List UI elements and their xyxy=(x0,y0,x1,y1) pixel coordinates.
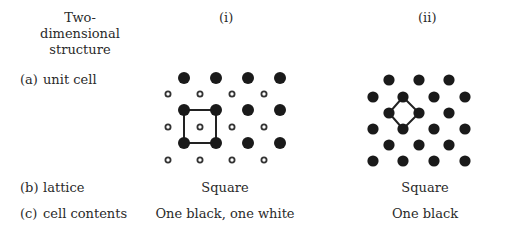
black-atom xyxy=(459,91,470,102)
black-atom xyxy=(274,104,286,116)
black-atom xyxy=(383,107,394,118)
black-atom xyxy=(443,74,454,85)
black-atom xyxy=(459,123,470,134)
white-atom xyxy=(165,91,170,96)
white-atom xyxy=(229,124,234,129)
black-atom xyxy=(242,137,254,149)
white-atom xyxy=(165,124,170,129)
black-atom xyxy=(443,139,454,150)
white-atom xyxy=(197,124,202,129)
black-atom xyxy=(178,137,190,149)
white-atom xyxy=(165,157,170,162)
black-atom xyxy=(428,123,439,134)
black-atom xyxy=(383,74,394,85)
white-atom xyxy=(197,91,202,96)
black-atom xyxy=(413,139,424,150)
black-atom xyxy=(383,139,394,150)
black-atom xyxy=(367,155,378,166)
structure-diagrams xyxy=(0,0,505,230)
white-atom xyxy=(261,91,266,96)
black-atom xyxy=(428,155,439,166)
black-atom xyxy=(274,137,286,149)
white-atom xyxy=(229,91,234,96)
black-atom xyxy=(397,155,408,166)
white-atom xyxy=(197,157,202,162)
black-atom xyxy=(178,104,190,116)
black-atom xyxy=(242,72,254,84)
black-atom xyxy=(242,104,254,116)
black-atom xyxy=(210,137,222,149)
black-atom xyxy=(210,104,222,116)
black-atom xyxy=(274,72,286,84)
white-atom xyxy=(229,157,234,162)
black-atom xyxy=(443,107,454,118)
black-atom xyxy=(367,91,378,102)
black-atom xyxy=(178,72,190,84)
white-atom xyxy=(261,124,266,129)
white-atom xyxy=(261,157,266,162)
black-atom xyxy=(413,74,424,85)
black-atom xyxy=(397,91,408,102)
black-atom xyxy=(428,91,439,102)
black-atom xyxy=(413,107,424,118)
black-atom xyxy=(397,123,408,134)
black-atom xyxy=(210,72,222,84)
black-atom xyxy=(459,155,470,166)
black-atom xyxy=(367,123,378,134)
